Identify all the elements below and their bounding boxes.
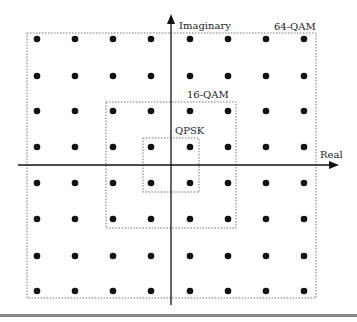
constellation-point (110, 180, 117, 187)
constellation-point (148, 180, 155, 187)
constellation-point (225, 144, 232, 151)
y-axis-label: Imaginary (179, 20, 231, 31)
constellation-point (72, 144, 79, 151)
constellation-point (148, 253, 155, 260)
constellation-point (263, 288, 270, 295)
constellation-point (34, 216, 41, 223)
constellation-point (187, 73, 194, 80)
constellation-point (225, 253, 232, 260)
constellation-point (263, 180, 270, 187)
constellation-point (110, 288, 117, 295)
constellation-point (72, 73, 79, 80)
constellation-point (72, 36, 79, 43)
constellation-point (34, 73, 41, 80)
constellation-point (34, 253, 41, 260)
constellation-point (34, 288, 41, 295)
constellation-point (110, 108, 117, 115)
constellation-point (34, 144, 41, 151)
constellation-point (301, 180, 308, 187)
constellation-point (263, 108, 270, 115)
constellation-point (34, 108, 41, 115)
constellation-point (301, 288, 308, 295)
constellation-point (225, 73, 232, 80)
constellation-point (110, 144, 117, 151)
constellation-point (187, 253, 194, 260)
footer-divider (0, 314, 357, 317)
constellation-point (110, 73, 117, 80)
constellation-point (72, 253, 79, 260)
constellation-point (301, 253, 308, 260)
constellation-point (301, 108, 308, 115)
constellation-point (72, 108, 79, 115)
constellation-point (148, 36, 155, 43)
constellation-point (187, 288, 194, 295)
constellation-point (110, 216, 117, 223)
constellation-point (187, 180, 194, 187)
constellation-point (72, 288, 79, 295)
constellation-point (110, 36, 117, 43)
constellation-point (225, 288, 232, 295)
constellation-point (72, 180, 79, 187)
y-axis-arrow-icon (167, 14, 175, 24)
constellation-point (187, 216, 194, 223)
x-axis-arrow-icon (329, 161, 339, 169)
constellation-point (225, 180, 232, 187)
region-16qam-label: 16-QAM (187, 89, 229, 100)
constellation-point (148, 108, 155, 115)
constellation-point (263, 36, 270, 43)
constellation-point (301, 73, 308, 80)
region-64qam-label: 64-QAM (274, 21, 316, 32)
constellation-point (110, 253, 117, 260)
constellation-point (225, 108, 232, 115)
constellation-point (301, 216, 308, 223)
constellation-point (34, 180, 41, 187)
constellation-point (148, 144, 155, 151)
constellation-point (148, 216, 155, 223)
constellation-point (148, 288, 155, 295)
constellation-diagram: Imaginary Real 64-QAM 16-QAM QPSK (0, 0, 357, 322)
constellation-point (263, 253, 270, 260)
constellation-point (187, 144, 194, 151)
constellation-point (148, 73, 155, 80)
constellation-point (225, 36, 232, 43)
constellation-point (34, 36, 41, 43)
constellation-point (187, 36, 194, 43)
constellation-point (263, 216, 270, 223)
constellation-point (72, 216, 79, 223)
constellation-point (263, 73, 270, 80)
constellation-point (187, 108, 194, 115)
constellation-point (301, 36, 308, 43)
constellation-point (263, 144, 270, 151)
constellation-point (225, 216, 232, 223)
constellation-point (301, 144, 308, 151)
x-axis-label: Real (320, 149, 343, 160)
region-qpsk-label: QPSK (175, 125, 205, 136)
